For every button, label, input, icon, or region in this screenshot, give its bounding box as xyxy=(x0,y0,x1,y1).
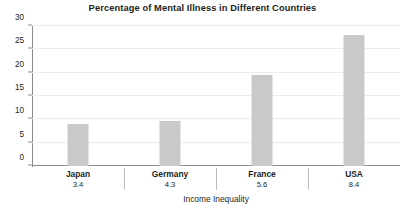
category-label-table: Japan3.4Germany4.3France5.6USA8.4 xyxy=(32,167,400,193)
x-axis-title: Income Inequality xyxy=(32,194,400,204)
bar-slot xyxy=(32,26,124,166)
bars-layer xyxy=(32,26,400,166)
y-axis-tick-label: 0 xyxy=(19,153,24,162)
bar[interactable] xyxy=(160,121,181,166)
y-axis-labels: 051015202530 xyxy=(0,26,30,166)
bar-slot xyxy=(216,26,308,166)
category-value: 3.4 xyxy=(32,180,124,190)
y-axis-tick-label: 15 xyxy=(15,83,24,92)
category-name: Germany xyxy=(124,169,216,180)
y-axis-tick-label: 5 xyxy=(19,129,24,138)
y-axis-tick-label: 25 xyxy=(15,36,24,45)
y-axis-tick-label: 10 xyxy=(15,106,24,115)
category-name: USA xyxy=(308,169,400,180)
y-axis-tick-label: 20 xyxy=(15,59,24,68)
bar[interactable] xyxy=(68,124,89,166)
bar[interactable] xyxy=(252,75,273,166)
bar-chart: Percentage of Mental Illness in Differen… xyxy=(0,0,405,214)
plot-area xyxy=(32,26,400,166)
bar-slot xyxy=(124,26,216,166)
bar[interactable] xyxy=(344,35,365,166)
category-label-cell: Japan3.4 xyxy=(32,167,124,193)
category-value: 4.3 xyxy=(124,180,216,190)
category-name: Japan xyxy=(32,169,124,180)
category-value: 8.4 xyxy=(308,180,400,190)
category-name: France xyxy=(216,169,308,180)
chart-title: Percentage of Mental Illness in Differen… xyxy=(0,3,405,13)
y-axis-tick-label: 30 xyxy=(15,13,24,22)
category-label-cell: Germany4.3 xyxy=(124,167,216,193)
bar-slot xyxy=(308,26,400,166)
category-label-cell: USA8.4 xyxy=(308,167,400,193)
category-value: 5.6 xyxy=(216,180,308,190)
category-label-cell: France5.6 xyxy=(216,167,308,193)
